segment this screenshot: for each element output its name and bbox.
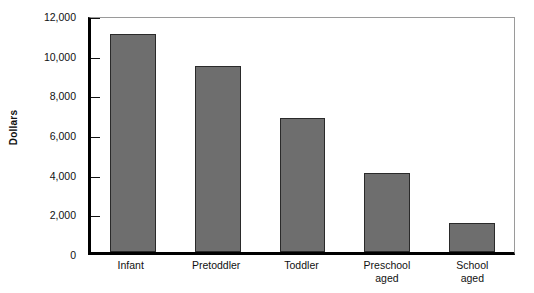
- bars-container: [91, 18, 514, 252]
- y-axis-tick-label: 0: [70, 249, 76, 261]
- y-axis-tick-label: 2,000: [50, 209, 76, 221]
- bar: [110, 34, 156, 252]
- bar-group: [176, 18, 261, 252]
- bar-group: [91, 18, 176, 252]
- bar-chart: Dollars 02,0004,0006,0008,00010,00012,00…: [0, 0, 534, 293]
- y-axis-tick-label: 6,000: [50, 130, 76, 142]
- x-axis-tick-label: Infant: [88, 259, 173, 272]
- y-axis-tick-label: 4,000: [50, 170, 76, 182]
- y-axis-tick-labels: 02,0004,0006,0008,00010,00012,000: [26, 0, 82, 293]
- x-axis-tick-label: Preschool aged: [344, 259, 429, 284]
- y-axis-tick-label: 10,000: [44, 51, 76, 63]
- bar-group: [345, 18, 430, 252]
- x-axis-tick-labels: InfantPretoddlerToddlerPreschool agedSch…: [88, 259, 515, 293]
- bar: [280, 118, 326, 252]
- bar-group: [260, 18, 345, 252]
- x-axis-tick-label: Pretoddler: [173, 259, 258, 272]
- y-axis-tick-label: 12,000: [44, 11, 76, 23]
- bar: [449, 223, 495, 252]
- y-axis-title-text: Dollars: [9, 110, 20, 145]
- bar: [195, 66, 241, 252]
- x-axis-tick-label: Toddler: [259, 259, 344, 272]
- plot-area: [88, 17, 515, 255]
- bar: [364, 173, 410, 252]
- x-axis-tick-label: School aged: [430, 259, 515, 284]
- y-axis-tick-label: 8,000: [50, 90, 76, 102]
- bar-group: [429, 18, 514, 252]
- y-axis-title: Dollars: [0, 0, 28, 255]
